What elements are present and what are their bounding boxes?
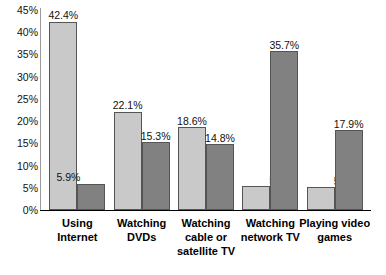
x-tick-label: Playing videogames xyxy=(289,216,381,244)
bar[interactable]: 5.1% xyxy=(307,187,335,210)
bar-value-label: 35.7% xyxy=(269,40,299,51)
bar[interactable]: 14.8% xyxy=(206,144,234,210)
y-tick-label: 30% xyxy=(4,71,38,82)
bar[interactable]: 5.3% xyxy=(242,186,270,210)
bar-group-bars: 42.4%5.9% xyxy=(49,10,105,210)
y-tick-label: 40% xyxy=(4,27,38,38)
bar-group-bars: 5.1%17.9% xyxy=(307,10,363,210)
y-tick-label: 45% xyxy=(4,5,38,16)
y-tick-label: 35% xyxy=(4,49,38,60)
bar-group-bars: 22.1%15.3% xyxy=(114,10,170,210)
y-tick-label: 0% xyxy=(4,205,38,216)
bar-group-bars: 5.3%35.7% xyxy=(242,10,298,210)
bar-group: 5.1%17.9% xyxy=(307,10,363,210)
bar[interactable]: 18.6% xyxy=(178,127,206,210)
bar-value-label: 15.3% xyxy=(141,131,171,142)
bar-chart: 0%5%10%15%20%25%30%35%40%45% 42.4%5.9%22… xyxy=(0,0,386,275)
bar-value-label: 17.9% xyxy=(334,119,364,130)
bar[interactable]: 35.7% xyxy=(270,51,298,210)
bar-group-bars: 18.6%14.8% xyxy=(178,10,234,210)
bar-group: 22.1%15.3% xyxy=(114,10,170,210)
bar-value-label: 22.1% xyxy=(113,100,143,111)
bar-group: 42.4%5.9% xyxy=(49,10,105,210)
y-tick-label: 20% xyxy=(4,116,38,127)
x-axis-category-labels: UsingInternetWatchingDVDsWatchingcable o… xyxy=(41,216,371,272)
bar-value-label: 14.8% xyxy=(205,133,235,144)
bar-value-label: 5.9% xyxy=(56,172,80,183)
bar-value-label: 18.6% xyxy=(177,116,207,127)
bar[interactable]: 17.9% xyxy=(335,130,363,210)
bar[interactable]: 5.9% xyxy=(77,184,105,210)
bar[interactable]: 22.1% xyxy=(114,112,142,210)
y-tick-label: 5% xyxy=(4,183,38,194)
bar-group: 18.6%14.8% xyxy=(178,10,234,210)
bar-group: 5.3%35.7% xyxy=(242,10,298,210)
bar-value-label: 42.4% xyxy=(48,10,78,21)
y-tick-label: 10% xyxy=(4,160,38,171)
y-tick-label: 15% xyxy=(4,138,38,149)
plot-area: 42.4%5.9%22.1%15.3%18.6%14.8%5.3%35.7%5.… xyxy=(41,10,371,210)
x-axis-line xyxy=(40,210,371,211)
bar[interactable]: 15.3% xyxy=(142,142,170,210)
y-tick-label: 25% xyxy=(4,94,38,105)
